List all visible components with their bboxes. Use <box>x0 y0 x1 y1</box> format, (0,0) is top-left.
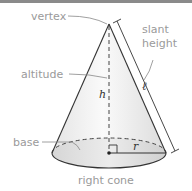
slant-height-leader <box>144 60 153 80</box>
vertex-label: vertex <box>31 10 67 23</box>
slant-tick-bottom <box>171 149 179 153</box>
slant-height-label-line1: slant <box>142 23 169 36</box>
vertex-leader <box>68 16 107 24</box>
base-label: base <box>13 136 39 149</box>
radius-variable: r <box>133 140 139 153</box>
slant-tick-top <box>113 19 121 23</box>
height-variable: h <box>99 88 106 101</box>
diagram-caption: right cone <box>78 174 134 187</box>
slant-variable: ℓ <box>142 80 147 93</box>
cone-diagram: vertex slant height altitude base h ℓ r … <box>0 0 192 191</box>
slant-height-label-line2: height <box>142 37 178 50</box>
altitude-label: altitude <box>21 68 63 81</box>
base-center-point <box>107 151 111 155</box>
